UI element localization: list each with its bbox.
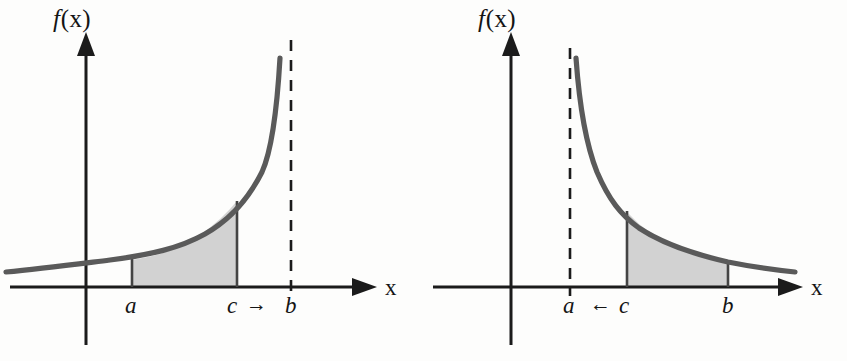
y-axis-label-upright-right: (x) [486, 5, 516, 32]
tick-label-b-left: b [285, 294, 297, 317]
y-axis-label-italic-right: f [478, 5, 486, 32]
tick-label-b-right: b [722, 294, 734, 317]
limit-arrow-right: ← [590, 294, 611, 315]
x-axis-arrowhead-right [778, 278, 803, 296]
x-axis-label-left: x [385, 276, 397, 299]
tick-label-a-right: a [563, 294, 575, 317]
tick-label-a-left: a [125, 294, 137, 317]
x-axis-arrowhead-left [352, 278, 377, 296]
y-axis-label-upright-left: (x) [61, 5, 91, 32]
x-axis-label-right: x [811, 276, 823, 299]
tick-label-c-right: c [619, 294, 629, 317]
chart-panel-left: f(x) x a c → b [0, 0, 424, 361]
y-axis-label-right: f(x) [478, 6, 516, 31]
y-axis-label-left: f(x) [53, 6, 91, 31]
figure-improper-integrals: f(x) x a c → b f(x) x a ← [0, 0, 847, 361]
limit-arrow-left: → [246, 294, 267, 315]
chart-panel-right: f(x) x a ← c b [423, 0, 847, 361]
y-axis-arrowhead-right [502, 32, 520, 56]
y-axis-arrowhead-left [77, 32, 95, 56]
curve-left [6, 58, 280, 272]
y-axis-label-italic-left: f [53, 5, 61, 32]
tick-label-c-left: c [227, 294, 237, 317]
curve-right [576, 58, 795, 272]
